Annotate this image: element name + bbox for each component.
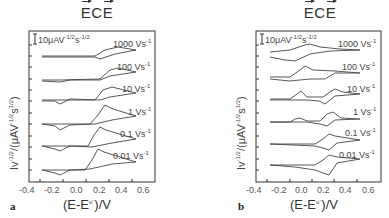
x-tick: 0.6 (362, 185, 375, 195)
x-tick: -0.4 (246, 185, 262, 195)
x-axis-label: (E-Eo´)/V (290, 197, 338, 212)
panel-label-a: a (10, 200, 16, 212)
rate-label-100: 100 Vs-1 (117, 61, 150, 72)
rate-label-0.1: 0.1 Vs-1 (120, 128, 151, 139)
x-tick: 0.2 (317, 185, 330, 195)
panel-a: ECE (0, 0, 194, 218)
scale-bar-label: 10μAV-1/2s-1/2 (38, 34, 90, 45)
x-tick: 0.4 (339, 185, 352, 195)
x-tick: 0.0 (70, 185, 83, 195)
x-tick: 0.0 (295, 185, 308, 195)
scale-bar-label: 10μAV-1/2s-1/2 (265, 34, 317, 45)
rate-label-10: 10 Vs-1 (347, 83, 375, 94)
x-tick: -0.2 (271, 185, 287, 195)
x-tick: 0.6 (137, 185, 150, 195)
rate-label-10: 10 Vs-1 (122, 83, 150, 94)
x-tick: 0.2 (93, 185, 106, 195)
rate-label-100: 100 Vs-1 (342, 61, 375, 72)
x-tick: -0.2 (44, 185, 60, 195)
y-axis-label: Iv-1/2/(μAV-1/2s1/2) (235, 96, 247, 170)
x-tick: 0.4 (115, 185, 128, 195)
panel-b: ECE 10μAV-1/2s-1/2 1000 Vs-1 100 Vs-1 (195, 0, 389, 218)
x-tick: -0.4 (19, 185, 35, 195)
rate-label-1: 1 Vs-1 (128, 106, 151, 117)
panel-label-b: b (238, 200, 244, 212)
rate-label-0.01: 0.01 Vs-1 (339, 149, 375, 160)
rate-label-1: 1 Vs-1 (353, 106, 376, 117)
rate-label-1000: 1000 Vs-1 (113, 38, 151, 49)
rate-label-0.01: 0.01 Vs-1 (113, 150, 149, 161)
x-axis-label: (E-Eo´)/V (63, 197, 111, 212)
rate-label-1000: 1000 Vs-1 (338, 38, 376, 49)
y-axis-label: Iv-1/2/(μAV-1/2s1/2) (8, 96, 20, 170)
rate-label-0.1: 0.1 Vs-1 (345, 127, 376, 138)
